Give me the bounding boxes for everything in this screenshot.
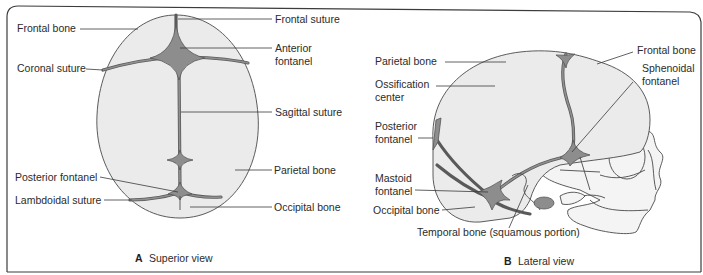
zygomatic-process — [560, 192, 585, 204]
caption-letter-b: B — [504, 255, 512, 267]
infant-skull-figure: Frontal bone Coronal suture Posterior fo… — [0, 0, 703, 275]
leader-lateral-frontal-bone — [597, 52, 633, 64]
label-mastoid-fontanel-line1: Mastoid — [375, 172, 412, 184]
leader-coronal-suture — [86, 69, 103, 70]
external-acoustic-meatus — [534, 197, 554, 209]
label-posterior-fontanel: Posterior fontanel — [15, 171, 97, 183]
label-anterior-fontanel-line1: Anterior — [275, 42, 312, 54]
label-lateral-parietal-bone: Parietal bone — [375, 55, 437, 67]
label-sagittal-suture: Sagittal suture — [275, 106, 342, 118]
label-lateral-frontal-bone: Frontal bone — [637, 44, 696, 56]
label-lambdoidal-suture: Lambdoidal suture — [15, 194, 102, 206]
caption-lateral-view: Lateral view — [518, 255, 574, 267]
label-ossification-center-line1: Ossification — [375, 78, 429, 90]
label-coronal-suture: Coronal suture — [17, 62, 86, 74]
panel-lateral-view: Parietal bone Ossification center Poster… — [373, 44, 696, 267]
label-frontal-suture: Frontal suture — [275, 13, 340, 25]
label-sphenoidal-fontanel-line1: Sphenoidal — [642, 62, 695, 74]
label-parietal-bone: Parietal bone — [274, 164, 336, 176]
label-mastoid-fontanel-line2: fontanel — [375, 185, 412, 197]
label-occipital-bone: Occipital bone — [274, 201, 341, 213]
label-ossification-center-line2: center — [375, 91, 405, 103]
label-anterior-fontanel-line2: fontanel — [275, 55, 312, 67]
sagittal-suture-inner — [179, 70, 180, 192]
label-frontal-bone: Frontal bone — [17, 22, 76, 34]
label-temporal-bone-squamous: Temporal bone (squamous portion) — [417, 226, 580, 238]
label-sphenoidal-fontanel-line2: fontanel — [642, 75, 679, 87]
panel-superior-view: Frontal bone Coronal suture Posterior fo… — [15, 13, 342, 264]
label-lateral-posterior-fontanel-line2: fontanel — [375, 133, 412, 145]
label-lateral-occipital-bone: Occipital bone — [373, 204, 440, 216]
label-lateral-posterior-fontanel-line1: Posterior — [375, 120, 418, 132]
caption-superior-view: Superior view — [149, 252, 213, 264]
caption-letter-a: A — [135, 252, 143, 264]
